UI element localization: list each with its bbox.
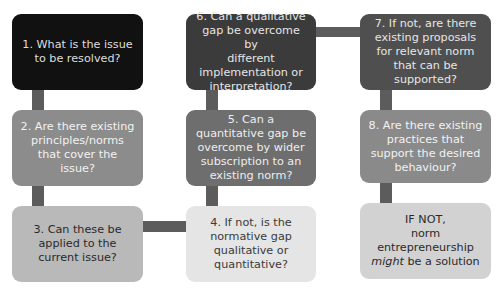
connector-3-4	[140, 221, 188, 232]
step-4-box: 4. If not, is the normative gap qualitat…	[186, 206, 316, 282]
step-7-label: 7. If not, are there existing proposals …	[375, 17, 477, 87]
step-9-box: IF NOT, norm entrepreneurship might be a…	[360, 203, 491, 279]
connector-8-9	[380, 181, 392, 205]
step-5-label: 5. Can a quantitative gap be overcome by…	[196, 113, 306, 183]
step-9-label: IF NOT, norm entrepreneurship might be a…	[371, 213, 479, 269]
connector-7-8	[380, 88, 392, 112]
step-6-label: 6. Can a qualitative gap be overcome by …	[194, 10, 308, 94]
step-9-label-main: IF NOT, norm entrepreneurship	[377, 213, 474, 254]
step-2-label: 2. Are there existing principles/norms t…	[21, 120, 135, 176]
step-1-box: 1. What is the issue to be resolved?	[12, 14, 143, 90]
connector-4-5	[206, 184, 218, 208]
step-1-label: 1. What is the issue to be resolved?	[22, 38, 132, 66]
step-3-box: 3. Can these be applied to the current i…	[12, 206, 143, 282]
connector-1-2	[32, 88, 44, 112]
step-7-box: 7. If not, are there existing proposals …	[360, 14, 491, 90]
step-3-label: 3. Can these be applied to the current i…	[33, 223, 121, 265]
step-9-label-tail: be a solution	[404, 255, 480, 268]
step-2-box: 2. Are there existing principles/norms t…	[12, 110, 143, 186]
step-5-box: 5. Can a quantitative gap be overcome by…	[186, 110, 316, 186]
step-9-label-emphasis: might	[371, 255, 404, 268]
step-8-box: 8. Are there existing practices that sup…	[360, 110, 491, 183]
step-4-label: 4. If not, is the normative gap qualitat…	[210, 216, 292, 272]
connector-2-3	[32, 184, 44, 208]
step-8-label: 8. Are there existing practices that sup…	[369, 119, 483, 175]
connector-6-7	[313, 27, 363, 37]
step-6-box: 6. Can a qualitative gap be overcome by …	[186, 14, 316, 90]
